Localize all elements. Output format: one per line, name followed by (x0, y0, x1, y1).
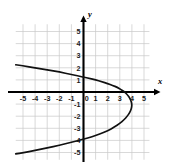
y-axis-label: y (87, 9, 92, 19)
x-tick-label: -2 (56, 94, 62, 103)
graph-canvas: -5-4-3-2-1012345 54321-1-2-3-4-5 x y (0, 0, 172, 168)
x-tick-label: -3 (44, 94, 50, 103)
y-tick-label: -5 (74, 148, 80, 157)
y-tick-label: -3 (74, 124, 80, 133)
x-tick-label: -5 (20, 94, 26, 103)
x-tick-label: 2 (106, 94, 110, 103)
x-tick-label: -4 (32, 94, 38, 103)
graph-background (0, 0, 172, 168)
y-tick-label: 4 (77, 39, 81, 48)
x-tick-label: 5 (142, 94, 146, 103)
y-tick-label: -2 (74, 112, 80, 121)
x-tick-label: 0 (85, 94, 89, 103)
y-tick-label: 5 (77, 27, 81, 36)
x-axis-label: x (157, 76, 163, 86)
y-tick-label: -1 (74, 100, 80, 109)
x-tick-label: 3 (118, 94, 122, 103)
coordinate-graph: -5-4-3-2-1012345 54321-1-2-3-4-5 x y (0, 0, 172, 168)
x-tick-label: 1 (94, 94, 98, 103)
y-tick-label: 3 (77, 51, 81, 60)
y-tick-label: 2 (77, 64, 81, 73)
